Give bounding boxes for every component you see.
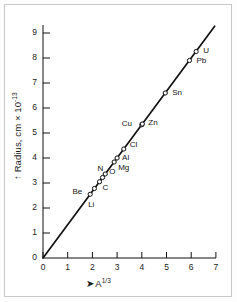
y-tick-label: 3 [21, 177, 37, 187]
figure-container: ↑ Radius, cm × 10-13 ➤ A1/3 01234567 012… [0, 0, 237, 302]
data-point-marker [122, 147, 126, 151]
data-point-label-sn: Sn [172, 88, 182, 97]
data-point-label-li: Li [88, 200, 94, 209]
data-point-marker [163, 91, 167, 95]
y-tick-label: 2 [21, 202, 37, 212]
y-tick-label: 8 [21, 52, 37, 62]
data-point-marker [112, 160, 116, 164]
y-tick-label: 9 [21, 27, 37, 37]
y-tick-label: 4 [21, 152, 37, 162]
x-tick-label: 1 [58, 262, 78, 272]
data-point-label-cl: Cl [130, 140, 138, 149]
data-point-marker [92, 186, 96, 190]
y-tick-label: 1 [21, 227, 37, 237]
x-tick-label: 6 [181, 262, 201, 272]
y-tick-label: 0 [21, 252, 37, 262]
y-tick-label: 7 [21, 77, 37, 87]
data-point-marker [103, 172, 107, 176]
y-tick-label: 5 [21, 127, 37, 137]
x-tick-label: 0 [33, 262, 53, 272]
data-point-label-zn: Zn [148, 118, 157, 127]
data-point-label-c: C [103, 183, 109, 192]
data-point-marker [140, 122, 144, 126]
data-point-marker [194, 49, 198, 53]
y-tick-label: 6 [21, 102, 37, 112]
data-point-label-cu: Cu [122, 119, 132, 128]
data-point-marker [88, 192, 92, 196]
x-tick-label: 7 [206, 262, 226, 272]
data-point-marker [115, 156, 119, 160]
y-axis-label-exponent: -13 [11, 92, 18, 102]
data-point-label-al: Al [122, 153, 129, 162]
data-point-label-o: O [109, 167, 115, 176]
data-point-label-mg: Mg [118, 163, 129, 172]
x-tick-label: 2 [82, 262, 102, 272]
x-axis-label-exponent: 1/3 [102, 277, 111, 284]
data-point-label-be: Be [72, 187, 82, 196]
x-axis-arrow: ➤ [86, 278, 93, 289]
x-axis-label: ➤ A1/3 [86, 277, 111, 289]
x-tick-label: 3 [107, 262, 127, 272]
data-point-marker [97, 180, 101, 184]
data-point-label-u: U [203, 46, 209, 55]
data-point-label-pb: Pb [196, 56, 206, 65]
data-point-label-n: N [98, 164, 104, 173]
data-point-marker [187, 58, 191, 62]
x-tick-label: 5 [157, 262, 177, 272]
x-tick-label: 4 [132, 262, 152, 272]
